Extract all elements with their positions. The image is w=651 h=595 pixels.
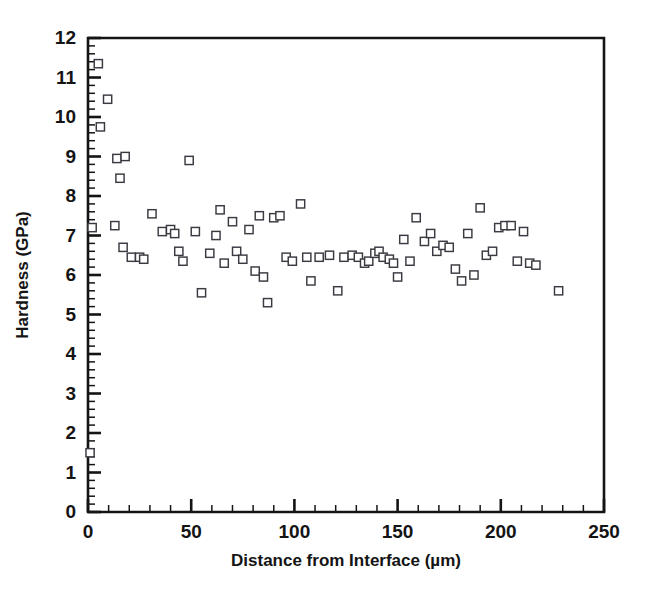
data-point-marker: [554, 287, 562, 295]
data-point-marker: [457, 277, 465, 285]
data-point-marker: [263, 299, 271, 307]
data-point-marker: [334, 287, 342, 295]
y-tick-label: 4: [65, 343, 76, 364]
data-point-marker: [451, 265, 459, 273]
x-tick-label: 200: [485, 521, 517, 542]
data-point-marker: [191, 227, 199, 235]
x-tick-label: 0: [83, 521, 94, 542]
data-point-marker: [171, 229, 179, 237]
data-point-marker: [406, 257, 414, 265]
data-point-marker: [340, 253, 348, 261]
data-point-marker: [507, 222, 515, 230]
y-tick-label: 5: [65, 304, 76, 325]
data-point-marker: [315, 253, 323, 261]
y-tick-label: 1: [65, 462, 76, 483]
y-tick-label: 3: [65, 383, 76, 404]
data-point-marker: [88, 224, 96, 232]
data-point-marker: [111, 222, 119, 230]
y-tick-label: 11: [56, 67, 77, 88]
data-point-marker: [119, 243, 127, 251]
x-tick-label: 150: [382, 521, 414, 542]
data-point-marker: [251, 267, 259, 275]
data-point-marker: [239, 255, 247, 263]
data-point-marker: [185, 156, 193, 164]
data-point-marker: [412, 214, 420, 222]
data-point-marker: [303, 253, 311, 261]
data-point-marker: [245, 225, 253, 233]
y-tick-label: 9: [65, 146, 76, 167]
data-point-marker: [127, 253, 135, 261]
data-point-marker: [116, 174, 124, 182]
data-point-marker: [288, 257, 296, 265]
data-point-marker: [307, 277, 315, 285]
data-point-marker: [325, 251, 333, 259]
data-point-marker: [513, 257, 521, 265]
data-point-marker: [140, 255, 148, 263]
data-point-marker: [427, 229, 435, 237]
data-point-marker: [216, 206, 224, 214]
data-point-marker: [148, 210, 156, 218]
y-tick-label: 6: [65, 264, 76, 285]
data-point-marker: [175, 247, 183, 255]
data-point-marker: [296, 200, 304, 208]
data-point-marker: [212, 231, 220, 239]
data-point-marker: [420, 237, 428, 245]
data-point-marker: [532, 261, 540, 269]
y-tick-label: 10: [55, 106, 76, 127]
y-axis-title: Hardness (GPa): [13, 211, 32, 339]
data-point-marker: [255, 212, 263, 220]
data-point-marker: [113, 154, 121, 162]
data-point-marker: [86, 449, 94, 457]
y-tick-label: 7: [65, 225, 76, 246]
chart-background: [0, 0, 651, 595]
data-point-marker: [233, 247, 241, 255]
data-point-marker: [488, 247, 496, 255]
data-point-marker: [470, 271, 478, 279]
data-point-marker: [400, 235, 408, 243]
data-point-marker: [519, 227, 527, 235]
data-point-marker: [206, 249, 214, 257]
data-point-marker: [121, 152, 129, 160]
data-point-marker: [179, 257, 187, 265]
y-tick-label: 0: [65, 501, 76, 522]
data-point-marker: [220, 259, 228, 267]
data-point-marker: [96, 123, 104, 131]
data-point-marker: [365, 257, 373, 265]
data-point-marker: [464, 229, 472, 237]
y-tick-label: 2: [65, 422, 76, 443]
data-point-marker: [389, 259, 397, 267]
data-point-marker: [476, 204, 484, 212]
x-axis-title: Distance from Interface (µm): [231, 551, 461, 570]
data-point-marker: [276, 212, 284, 220]
y-tick-label: 8: [65, 185, 76, 206]
x-tick-label: 50: [181, 521, 202, 542]
chart-figure: 050100150200250 0123456789101112 Distanc…: [0, 0, 651, 595]
data-point-marker: [94, 60, 102, 68]
data-point-marker: [394, 273, 402, 281]
data-point-marker: [445, 243, 453, 251]
data-point-marker: [259, 273, 267, 281]
x-tick-label: 250: [588, 521, 620, 542]
data-point-marker: [197, 289, 205, 297]
data-point-marker: [228, 218, 236, 226]
x-tick-label: 100: [279, 521, 311, 542]
y-tick-label: 12: [55, 27, 76, 48]
hardness-scatter-plot: 050100150200250 0123456789101112 Distanc…: [0, 0, 651, 595]
data-point-marker: [158, 227, 166, 235]
data-point-marker: [104, 95, 112, 103]
